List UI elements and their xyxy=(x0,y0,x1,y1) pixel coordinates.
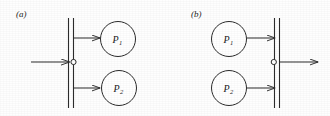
panel-b-process-p1-label: P xyxy=(223,34,230,45)
figure-container: (a) P xyxy=(0,0,330,116)
diagram-canvas: (a) P xyxy=(0,0,330,116)
panel-a-process-p2: P 2 xyxy=(102,71,137,106)
panel-b-label: (b) xyxy=(191,9,202,19)
panel-a-process-p1-label: P xyxy=(112,34,119,45)
panel-a-process-p1-subscript: 1 xyxy=(119,39,122,46)
panel-b-process-p2: P 2 xyxy=(212,71,247,106)
panel-a-process-p1: P 1 xyxy=(101,22,136,57)
panel-a-junction-node xyxy=(71,59,76,64)
panel-b: (b) P 1 P 2 xyxy=(191,9,318,108)
panel-a-label: (a) xyxy=(16,9,27,19)
panel-a: (a) P xyxy=(16,9,137,108)
panel-b-junction-node xyxy=(271,59,276,64)
panel-b-process-p1: P 1 xyxy=(212,22,247,57)
panel-a-process-p2-label: P xyxy=(113,83,120,94)
panel-b-process-p1-subscript: 1 xyxy=(230,39,233,46)
panel-b-process-p2-label: P xyxy=(223,83,230,94)
